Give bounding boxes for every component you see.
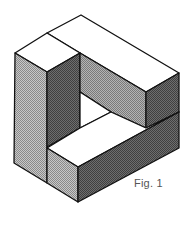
figure-caption: Fig. 1	[134, 177, 163, 189]
left-side-face	[14, 53, 47, 183]
